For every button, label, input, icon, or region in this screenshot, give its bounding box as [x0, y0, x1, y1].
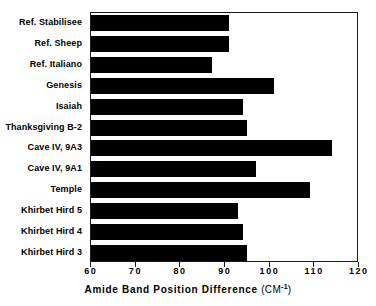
y-axis-label: Temple — [51, 181, 82, 197]
bar — [91, 57, 212, 73]
bar-row — [91, 224, 359, 240]
y-axis-label: Cave IV, 9A3 — [28, 139, 82, 155]
bar — [91, 245, 247, 261]
y-axis-label: Thanksgiving B-2 — [5, 119, 82, 135]
y-axis-label: Isaiah — [56, 98, 82, 114]
y-axis-label: Ref. Sheep — [34, 35, 82, 51]
bar — [91, 99, 243, 115]
x-axis-tick-label: 60 — [70, 266, 110, 276]
bar-row — [91, 78, 359, 94]
bar-row — [91, 161, 359, 177]
y-axis-category-labels: Ref. StabiliseeRef. SheepRef. ItalianoGe… — [0, 12, 86, 262]
x-axis-tick-label: 80 — [159, 266, 199, 276]
bar — [91, 36, 229, 52]
y-axis-label: Ref. Stabilisee — [19, 14, 82, 30]
y-axis-label: Ref. Italiano — [30, 56, 82, 72]
bar — [91, 15, 229, 31]
bar-row — [91, 15, 359, 31]
y-axis-label: Cave IV, 9A1 — [28, 160, 82, 176]
x-axis-unit-exponent: -1 — [281, 283, 288, 290]
y-axis-label: Genesis — [46, 77, 82, 93]
bar — [91, 120, 247, 136]
bar — [91, 140, 332, 156]
bar — [91, 203, 238, 219]
bar-row — [91, 120, 359, 136]
bar-row — [91, 57, 359, 73]
x-axis-unit: (CM-1) — [261, 284, 291, 295]
x-axis-tick-label: 120 — [338, 266, 376, 276]
x-axis-tick-label: 90 — [204, 266, 244, 276]
x-axis-unit-close: ) — [288, 284, 292, 295]
bar-row — [91, 99, 359, 115]
bar-row — [91, 203, 359, 219]
x-axis-tick-label: 100 — [249, 266, 289, 276]
bar — [91, 224, 243, 240]
bar-chart-figure: Ref. StabiliseeRef. SheepRef. ItalianoGe… — [0, 0, 376, 306]
plot-area — [90, 12, 358, 262]
x-axis-tick-label: 70 — [115, 266, 155, 276]
x-axis-title: Amide Band Position Difference (CM-1) — [0, 284, 376, 295]
bar-row — [91, 182, 359, 198]
bars-layer — [91, 13, 357, 261]
x-axis-unit-open: (CM — [261, 284, 281, 295]
x-axis-tick-labels: 60708090100110120 — [0, 266, 376, 280]
x-axis-title-text: Amide Band Position Difference — [85, 284, 258, 295]
x-axis-tick-label: 110 — [293, 266, 333, 276]
bar — [91, 78, 274, 94]
y-axis-label: Khirbet Hird 3 — [21, 244, 82, 260]
bar-row — [91, 140, 359, 156]
y-axis-label: Khirbet Hird 4 — [21, 223, 82, 239]
bar-row — [91, 36, 359, 52]
bar — [91, 161, 256, 177]
y-axis-label: Khirbet Hird 5 — [21, 202, 82, 218]
bar-row — [91, 245, 359, 261]
bar — [91, 182, 310, 198]
